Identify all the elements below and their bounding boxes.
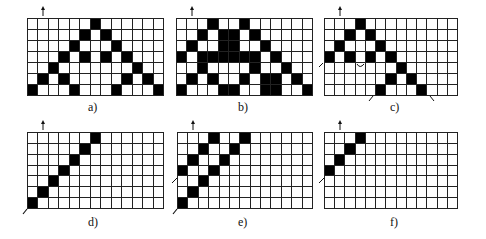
grid-cell — [80, 41, 89, 51]
grid-cell — [448, 63, 457, 73]
grid-cell — [188, 187, 197, 197]
grid-cell — [427, 144, 436, 154]
grid-cell — [80, 74, 89, 84]
grid-cell — [356, 166, 365, 176]
grid-cell — [38, 133, 47, 143]
grid-cell — [38, 176, 47, 186]
grid-cell — [407, 176, 416, 186]
grid-cell — [198, 85, 207, 95]
grid-cell — [178, 187, 187, 197]
grid-cell — [292, 52, 301, 62]
grid-cell — [386, 155, 395, 165]
grid-cell — [303, 144, 312, 154]
grid-cell — [386, 63, 395, 73]
grid-cell — [261, 85, 270, 95]
grid-cell — [376, 85, 385, 95]
grid-cell — [325, 155, 334, 165]
grid-cell — [386, 133, 395, 143]
grid-cell — [325, 41, 334, 51]
grid-cell — [271, 155, 280, 165]
grid-cell — [199, 187, 208, 197]
grid-cell — [397, 166, 406, 176]
grid-cell — [229, 85, 238, 95]
grid-cell — [133, 176, 142, 186]
grid-cell — [59, 133, 68, 143]
panel-b — [176, 18, 313, 96]
grid-cell — [303, 155, 312, 165]
grid-cell — [292, 198, 301, 208]
grid-cell — [112, 166, 121, 176]
grid-cell — [386, 85, 395, 95]
panel-e — [177, 132, 313, 209]
grid-cell — [325, 166, 334, 176]
grid-cell — [438, 52, 447, 62]
grid-cell — [220, 155, 229, 165]
grid-cell — [325, 85, 334, 95]
grid-cell — [366, 187, 375, 197]
grid-cell — [292, 176, 301, 186]
grid-cell — [49, 144, 58, 154]
grid-cell — [438, 74, 447, 84]
grid-cell — [261, 63, 270, 73]
grid-cell — [427, 30, 436, 40]
grid-cell — [198, 41, 207, 51]
grid-cell — [122, 198, 131, 208]
grid-cell — [38, 19, 47, 29]
grid-cell — [366, 133, 375, 143]
grid-cell — [448, 30, 457, 40]
grid-cell — [292, 187, 301, 197]
grid-cell — [292, 144, 301, 154]
grid-cell — [271, 63, 280, 73]
grid-cell — [271, 52, 280, 62]
grid-cell — [198, 63, 207, 73]
grid-cell — [438, 41, 447, 51]
grid-cell — [345, 85, 354, 95]
grid-cell — [345, 41, 354, 51]
grid-cell — [59, 52, 68, 62]
grid-cell — [240, 52, 249, 62]
grid-cell — [80, 187, 89, 197]
grid-cell — [199, 155, 208, 165]
grid-cell — [80, 155, 89, 165]
grid-cell — [325, 198, 334, 208]
grid-cell — [38, 52, 47, 62]
grid-cell — [28, 198, 37, 208]
grid-cell — [229, 63, 238, 73]
grid-cell — [271, 133, 280, 143]
grid-cell — [448, 41, 457, 51]
grid-cell — [376, 187, 385, 197]
grid-cell — [209, 166, 218, 176]
grid-cell — [292, 30, 301, 40]
grid-cell — [91, 133, 100, 143]
grid-cell — [240, 63, 249, 73]
grid-cell — [28, 187, 37, 197]
grid-cell — [38, 166, 47, 176]
grid-cell — [28, 52, 37, 62]
grid-cell — [70, 52, 79, 62]
grid-c — [324, 18, 458, 96]
grid-cell — [208, 74, 217, 84]
grid-cell — [220, 166, 229, 176]
grid-cell — [282, 133, 291, 143]
grid-cell — [219, 30, 228, 40]
grid-cell — [438, 85, 447, 95]
grid-cell — [188, 133, 197, 143]
grid-cell — [91, 19, 100, 29]
grid-cell — [397, 52, 406, 62]
grid-cell — [178, 144, 187, 154]
grid-cell — [230, 144, 239, 154]
grid-cell — [438, 63, 447, 73]
grid-cell — [303, 74, 312, 84]
grid-cell — [187, 52, 196, 62]
grid-cell — [386, 144, 395, 154]
grid-cell — [28, 85, 37, 95]
grid-cell — [282, 30, 291, 40]
grid-a — [27, 18, 164, 96]
grid-cell — [70, 19, 79, 29]
grid-cell — [178, 176, 187, 186]
grid-cell — [356, 176, 365, 186]
grid-cell — [28, 41, 37, 51]
grid-cell — [49, 187, 58, 197]
grid-cell — [91, 74, 100, 84]
grid-cell — [376, 19, 385, 29]
